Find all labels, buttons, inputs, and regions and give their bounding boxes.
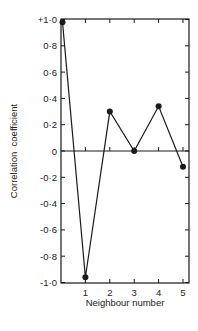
x-axis-title: Neighbour number	[86, 297, 165, 308]
plot-frame	[61, 19, 189, 283]
y-tick-label: 0·4	[43, 93, 57, 104]
y-tick-label: 0·8	[43, 40, 57, 51]
data-point-marker	[82, 274, 88, 280]
data-series	[60, 19, 187, 280]
data-point-marker	[107, 109, 113, 115]
y-axis-title: Correlation coefficient	[8, 103, 19, 198]
y-tick-label: +1·0	[38, 14, 57, 25]
y-tick-label: -1·0	[40, 277, 57, 288]
y-tick-label: -0·8	[40, 251, 57, 262]
y-tick-label: -0·4	[40, 198, 57, 209]
y-tick-label: -0·6	[40, 224, 57, 235]
x-tick-label: 5	[180, 287, 185, 298]
data-point-marker	[60, 19, 66, 25]
y-tick-label: 0·2	[43, 119, 57, 130]
correlation-chart: +1·00·80·60·40·20-0·2-0·4-0·6-0·8-1·0 12…	[0, 0, 198, 331]
data-point-marker	[131, 148, 137, 154]
y-tick-label: 0	[52, 146, 57, 157]
x-axis: 12345	[83, 19, 186, 298]
data-point-marker	[156, 103, 162, 109]
series-line	[63, 22, 184, 277]
y-tick-label: -0·2	[40, 172, 57, 183]
data-point-marker	[180, 164, 186, 170]
y-tick-label: 0·6	[43, 67, 57, 78]
